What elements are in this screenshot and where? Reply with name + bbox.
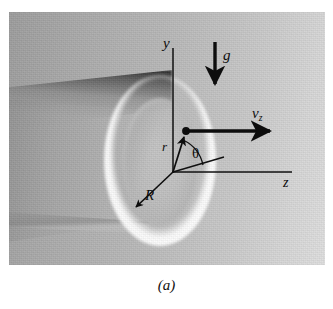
velocity-subscript: z <box>259 112 263 123</box>
figure-caption: (a) <box>0 277 333 294</box>
velocity-label: vz <box>252 106 262 122</box>
figure-root: y g vz z r θ R (a) <box>0 0 333 309</box>
z-axis-label: z <box>283 176 288 190</box>
radial-coordinate-label: r <box>162 140 167 153</box>
tube-interior-shading <box>125 102 195 220</box>
velocity-symbol: v <box>252 105 259 121</box>
theta-angle-label: θ <box>192 146 199 161</box>
y-axis-label: y <box>163 36 170 51</box>
gravity-label: g <box>223 48 231 63</box>
tube-radius-label: R <box>145 188 154 203</box>
